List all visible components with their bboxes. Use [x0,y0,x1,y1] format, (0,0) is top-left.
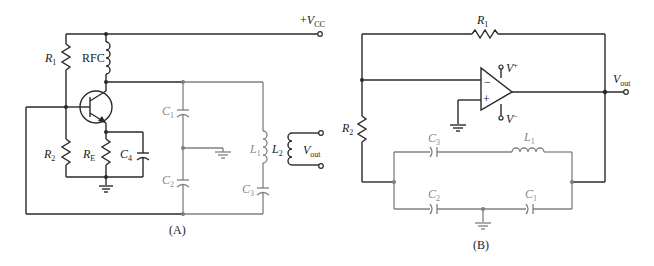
inductor-rfc-icon [106,42,110,74]
transistor-collector-leg [90,91,106,101]
circuit-b: R1 − + V+ V− Vout R2 [341,13,631,252]
opamp-noninverting-sign: + [483,92,490,106]
vplus-terminal [499,65,503,69]
schematics-canvas: +VCC R1 RFC R2 [0,0,654,266]
label-vout-b: Vout [613,72,631,88]
label-l1b: L1 [523,130,535,146]
ground-icon [99,186,113,192]
circuit-a: +VCC R1 RFC R2 [26,13,325,237]
label-c3b: C3 [428,131,440,147]
label-c4: C4 [120,147,132,163]
resistor-r2b-icon [358,116,366,142]
inductor-l1b-icon [512,148,544,152]
capacitor-c3b-icon [430,147,432,157]
opamp-inverting-sign: − [484,75,491,89]
vout-terminal-top [319,131,324,136]
resistor-r1b-icon [472,30,498,38]
resistor-r2-icon [62,139,70,165]
label-r2b: R2 [341,121,353,137]
vout-terminal-bottom [319,164,324,169]
label-l1: L1 [249,142,261,158]
vout-terminal-b [624,90,629,95]
vcc-label: +VCC [300,13,325,29]
label-rfc: RFC [82,51,105,65]
label-c2: C2 [162,173,174,189]
label-c2b: C2 [428,187,440,203]
vminus-terminal [499,116,503,120]
inductor-l1-icon [263,131,267,163]
label-c1b: C1 [525,187,537,203]
tank-ground-icon [215,148,231,158]
label-l2: L2 [271,142,283,158]
resistor-r1-icon [62,44,70,70]
caption-a: (A) [169,223,186,237]
label-c3: C3 [242,182,254,198]
label-vout-a: Vout [303,143,321,159]
label-r1b: R1 [476,13,488,29]
opamp-ground-icon [450,125,466,131]
resistor-re-icon [102,139,110,165]
tank-b-ground-icon [475,223,491,229]
capacitor-c1b-icon [526,204,528,214]
label-re: RE [82,147,95,163]
label-r2: R2 [43,147,55,163]
label-c1: C1 [162,104,174,120]
capacitor-c2b-icon [430,204,432,214]
label-vminus: V− [506,112,518,126]
label-vplus: V+ [506,61,518,75]
inductor-l2-icon [288,133,292,165]
label-r1: R1 [44,51,56,67]
vcc-terminal [318,32,323,37]
caption-b: (B) [473,238,489,252]
